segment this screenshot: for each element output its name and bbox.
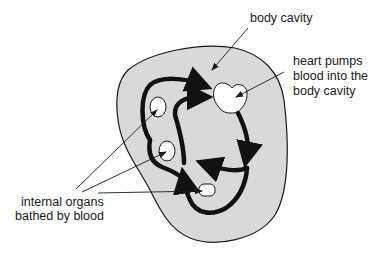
organ-middle-left (159, 141, 175, 161)
label-heart-line1: heart pumps (293, 54, 362, 68)
label-heart-line3: body cavity (293, 84, 356, 98)
label-organs-line1: internal organs (21, 195, 104, 209)
open-circulation-diagram: body cavity heart pumps blood into the b… (0, 0, 379, 255)
organ-bottom (199, 184, 215, 196)
label-organs-line2: bathed by blood (15, 209, 104, 223)
label-body-cavity: body cavity (250, 11, 313, 25)
label-heart-line2: blood into the (293, 69, 368, 83)
